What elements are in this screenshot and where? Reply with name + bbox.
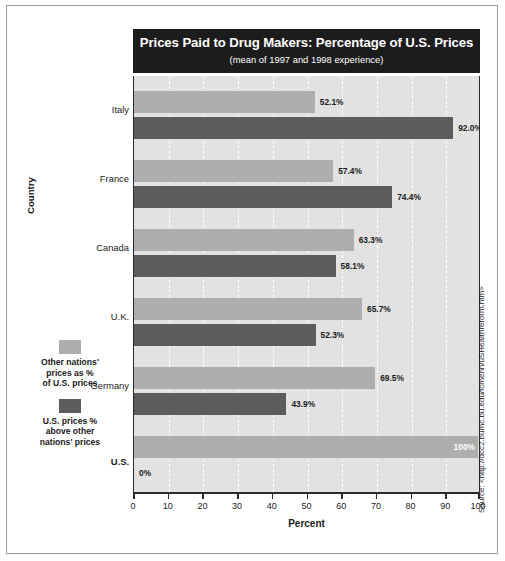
bar-uk-us-above <box>134 324 316 346</box>
bar-uk-other-nations <box>134 298 362 320</box>
x-tick-0 <box>133 492 135 499</box>
x-tick-label-70: 70 <box>361 501 391 511</box>
chart-title-banner: Prices Paid to Drug Makers: Percentage o… <box>133 29 480 73</box>
bar-group-us: 100% 0% <box>134 436 479 484</box>
bar-canada-other-nations <box>134 229 354 251</box>
bar-label-france-us-above: 74.4% <box>392 186 421 208</box>
category-label-italy: Italy <box>63 104 129 115</box>
bar-canada-us-above <box>134 255 336 277</box>
x-tick-label-10: 10 <box>153 501 183 511</box>
category-label-uk: U.K. <box>63 311 129 322</box>
y-axis-title: Country <box>25 177 36 214</box>
bar-label-france-other-nations: 57.4% <box>333 160 362 182</box>
legend-label-us-above-line3: nations' prices <box>21 437 119 448</box>
x-tick-20 <box>202 492 204 499</box>
x-axis-title: Percent <box>133 518 480 529</box>
bar-label-italy-other-nations: 52.1% <box>315 91 344 113</box>
x-tick-80 <box>411 492 413 499</box>
x-tick-label-40: 40 <box>257 501 287 511</box>
chart-title: Prices Paid to Drug Makers: Percentage o… <box>133 35 480 51</box>
bar-group-canada: 63.3% 58.1% <box>134 229 479 277</box>
bar-label-us-us-above: 0% <box>134 462 151 484</box>
chart-legend: Other nations' prices as % of U.S. price… <box>21 340 119 457</box>
legend-label-other-nations-line3: of U.S. prices <box>21 378 119 389</box>
legend-label-us-above-line1: U.S. prices % <box>21 416 119 427</box>
x-tick-40 <box>272 492 274 499</box>
bar-germany-us-above <box>134 393 286 415</box>
bar-label-uk-other-nations: 65.7% <box>362 298 391 320</box>
bar-label-canada-other-nations: 63.3% <box>354 229 383 251</box>
legend-label-us-above-line2: above other <box>21 426 119 437</box>
bar-italy-us-above <box>134 117 453 139</box>
x-tick-label-60: 60 <box>326 501 356 511</box>
bar-label-us-other-nations: 100% <box>133 436 475 458</box>
legend-swatch-other-nations <box>59 340 81 354</box>
bar-label-germany-us-above: 43.9% <box>286 393 315 415</box>
x-tick-label-80: 80 <box>396 501 426 511</box>
x-tick-60 <box>341 492 343 499</box>
x-tick-50 <box>307 492 309 499</box>
legend-item-us-above: U.S. prices % above other nations' price… <box>21 399 119 448</box>
x-tick-label-90: 90 <box>430 501 460 511</box>
bar-germany-other-nations <box>134 367 375 389</box>
x-tick-label-20: 20 <box>187 501 217 511</box>
x-tick-10 <box>168 492 170 499</box>
x-tick-label-30: 30 <box>222 501 252 511</box>
x-axis-line <box>133 492 480 494</box>
x-tick-label-0: 0 <box>118 501 148 511</box>
bar-group-germany: 69.5% 43.9% <box>134 367 479 415</box>
legend-label-other-nations-line2: prices as % <box>21 368 119 379</box>
bar-italy-other-nations <box>134 91 315 113</box>
chart-subtitle: (mean of 1997 and 1998 experience) <box>133 53 480 67</box>
bar-france-other-nations <box>134 160 333 182</box>
legend-swatch-us-above <box>59 399 81 413</box>
bar-label-italy-us-above: 92.0% <box>453 117 480 139</box>
bar-label-germany-other-nations: 69.5% <box>375 367 404 389</box>
legend-label-other-nations-line1: Other nations' <box>21 357 119 368</box>
chart-page-frame: Prices Paid to Drug Makers: Percentage o… <box>6 5 498 554</box>
bar-group-uk: 65.7% 52.3% <box>134 298 479 346</box>
category-label-france: France <box>63 173 129 184</box>
x-tick-90 <box>445 492 447 499</box>
category-label-us: U.S. <box>63 456 129 467</box>
bar-group-italy: 52.1% 92.0% <box>134 91 479 139</box>
chart-plot-area: 52.1% 92.0% 57.4% 74.4% 63.3% 58.1% 65.7… <box>133 76 480 492</box>
bar-label-canada-us-above: 58.1% <box>336 255 365 277</box>
x-tick-label-50: 50 <box>292 501 322 511</box>
legend-item-other-nations: Other nations' prices as % of U.S. price… <box>21 340 119 389</box>
bar-france-us-above <box>134 186 392 208</box>
category-label-canada: Canada <box>63 242 129 253</box>
x-tick-70 <box>376 492 378 499</box>
source-note: Source: <http://dcc2.bumc.bu.edu/fcmenn/… <box>477 286 486 513</box>
x-tick-30 <box>237 492 239 499</box>
bar-label-uk-us-above: 52.3% <box>316 324 345 346</box>
bar-group-france: 57.4% 74.4% <box>134 160 479 208</box>
